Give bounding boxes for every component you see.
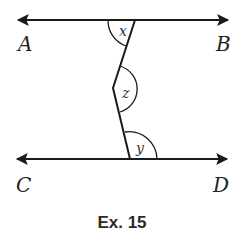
figure-caption: Ex. 15 bbox=[0, 213, 244, 233]
angle-label-y: y bbox=[135, 140, 145, 156]
parallel-lines-diagram: A B C D x z y bbox=[0, 0, 244, 244]
angle-label-z: z bbox=[121, 85, 130, 101]
point-label-c: C bbox=[16, 173, 31, 197]
point-label-b: B bbox=[215, 32, 231, 56]
point-label-a: A bbox=[16, 32, 32, 56]
angle-label-x: x bbox=[119, 23, 127, 39]
point-label-d: D bbox=[212, 173, 229, 197]
